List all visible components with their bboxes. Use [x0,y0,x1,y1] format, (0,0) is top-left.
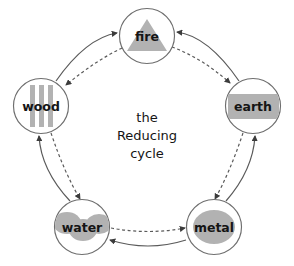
node-fire-label: fire [135,29,159,44]
edge-earth-to-fire [177,32,239,81]
edge-metal-to-earth [226,136,255,201]
edge-wood-to-fire [56,33,117,81]
node-earth-label: earth [234,99,272,114]
edge-metal-to-water [110,240,186,246]
node-fire[interactable]: fire [120,9,175,64]
center-caption-line-1: the [136,110,157,125]
node-metal[interactable]: metal [187,200,242,255]
edge-fire-to-wood [66,48,122,85]
center-caption: the Reducing cycle [117,110,177,161]
node-water[interactable]: water [53,200,112,255]
center-caption-line-3: cycle [130,146,164,161]
edge-earth-to-metal [215,133,243,199]
node-water-label: water [62,220,103,235]
edge-water-to-metal [111,228,185,232]
node-earth[interactable]: earth [226,79,281,134]
center-caption-line-2: Reducing [117,128,177,143]
edge-fire-to-earth [172,47,230,83]
node-wood-label: wood [22,99,60,114]
cycle-diagram-canvas: fire earth metal water [0,0,294,266]
reducing-cycle-diagram: fire earth metal water [0,0,294,266]
node-metal-label: metal [194,220,234,235]
node-wood[interactable]: wood [14,79,69,134]
edge-wood-to-water [51,133,80,199]
edge-water-to-wood [39,136,70,201]
